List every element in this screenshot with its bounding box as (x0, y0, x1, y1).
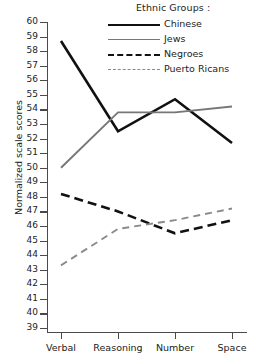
y-tick-label: 60 (18, 16, 38, 26)
y-tick-label: 44 (18, 249, 38, 259)
y-tick-label: 53 (18, 118, 38, 128)
y-tick-label: 55 (18, 89, 38, 99)
y-tick (40, 182, 47, 183)
x-tick (232, 332, 233, 339)
y-tick (40, 197, 47, 198)
y-tick (40, 284, 47, 285)
y-tick-label: 59 (18, 31, 38, 41)
chart-container: Ethnic Groups : Chinese Jews Negroes Pue… (0, 0, 256, 364)
y-tick-label: 47 (18, 205, 38, 215)
x-tick (61, 332, 62, 339)
x-tick-label-verbal: Verbal (46, 342, 76, 353)
y-tick-label: 49 (18, 176, 38, 186)
y-tick-label: 58 (18, 45, 38, 55)
y-tick-label: 42 (18, 278, 38, 288)
x-tick (175, 332, 176, 339)
y-tick-label: 50 (18, 162, 38, 172)
y-tick (40, 37, 47, 38)
series-line-puerto-ricans (61, 209, 232, 266)
y-tick (40, 270, 47, 271)
y-tick (40, 109, 47, 110)
y-tick (40, 255, 47, 256)
plot-area (47, 22, 244, 328)
y-tick (40, 226, 47, 227)
x-tick-label-number: Number (156, 342, 194, 353)
y-tick-label: 56 (18, 74, 38, 84)
y-tick-label: 40 (18, 307, 38, 317)
y-tick (40, 22, 47, 23)
y-tick-label: 51 (18, 147, 38, 157)
y-tick (40, 139, 47, 140)
y-tick (40, 211, 47, 212)
y-tick (40, 95, 47, 96)
x-tick (118, 332, 119, 339)
y-tick (40, 168, 47, 169)
y-tick (40, 153, 47, 154)
y-tick (40, 241, 47, 242)
y-tick-label: 48 (18, 191, 38, 201)
y-tick-label: 46 (18, 220, 38, 230)
y-tick-label: 39 (18, 322, 38, 332)
y-tick (40, 299, 47, 300)
y-tick (40, 51, 47, 52)
y-tick (40, 66, 47, 67)
series-line-chinese (61, 41, 232, 143)
y-tick-label: 41 (18, 293, 38, 303)
y-tick (40, 313, 47, 314)
x-tick-label-space: Space (218, 342, 247, 353)
y-tick-label: 52 (18, 133, 38, 143)
y-tick-label: 43 (18, 264, 38, 274)
y-tick (40, 328, 47, 329)
y-tick-label: 54 (18, 103, 38, 113)
y-tick-label: 57 (18, 60, 38, 70)
y-tick-label: 45 (18, 235, 38, 245)
y-tick (40, 80, 47, 81)
x-tick-label-reasoning: Reasoning (93, 342, 142, 353)
y-tick (40, 124, 47, 125)
